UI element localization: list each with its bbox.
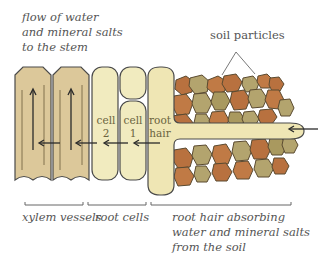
label-brackets — [25, 202, 291, 205]
xylem-vessels — [15, 67, 89, 180]
root-hair-label: root hair — [148, 114, 172, 140]
soil-particles-label: soil particles — [210, 28, 285, 43]
root-hair-absorbing-label: root hair absorbing water and mineral sa… — [172, 210, 310, 255]
xylem-vessels-label: xylem vessels — [22, 210, 102, 225]
soil-particles-pointers — [222, 52, 255, 75]
cell-2-label: cell 2 — [94, 114, 118, 140]
cell-1-label: cell 1 — [121, 114, 145, 140]
root-cells-label: root cells — [95, 210, 149, 225]
flow-label: flow of water and mineral salts to the s… — [22, 10, 123, 55]
